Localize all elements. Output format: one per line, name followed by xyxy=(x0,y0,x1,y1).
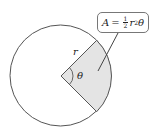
formula-fraction: 1 2 xyxy=(123,16,129,29)
fraction-denominator: 2 xyxy=(124,23,128,29)
formula-angle: θ xyxy=(138,17,144,28)
angle-label: θ xyxy=(77,70,83,81)
formula-lhs: A xyxy=(102,17,109,28)
formula-equals: = xyxy=(111,17,119,28)
sector-area-diagram: r θ A = 1 2 r2θ xyxy=(0,0,159,132)
formula-box: A = 1 2 r2θ xyxy=(97,12,149,33)
